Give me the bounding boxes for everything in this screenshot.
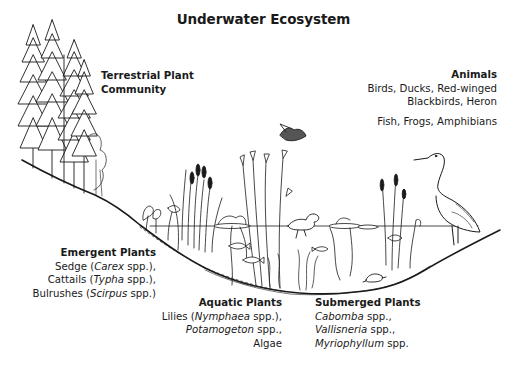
text-segment: Algae — [253, 338, 282, 349]
aquatic-line: Lilies (Nymphaea spp.), — [160, 310, 282, 324]
submerged-weeds — [268, 250, 318, 290]
text-segment: spp.), — [124, 261, 156, 272]
animals-line1: Birds, Ducks, Red-winged — [297, 82, 497, 96]
genus-name: Nymphaea — [195, 311, 250, 322]
shrub — [90, 134, 106, 190]
duck — [288, 214, 319, 238]
turtle — [363, 274, 386, 282]
text-segment: spp. — [384, 338, 409, 349]
emergent-line: Cattails (Typha spp.), — [0, 273, 156, 287]
terrestrial-heading-line2: Community — [101, 83, 194, 97]
aquatic-plants-label: Aquatic Plants Lilies (Nymphaea spp.), P… — [160, 296, 282, 350]
conifer-trees — [18, 20, 106, 196]
fish — [229, 235, 402, 263]
genus-name: Carex — [94, 261, 124, 272]
reeds — [240, 150, 292, 288]
cattails — [170, 164, 222, 252]
aquatic-heading: Aquatic Plants — [160, 296, 282, 310]
terrestrial-plant-label: Terrestrial Plant Community — [101, 69, 194, 96]
emergent-line: Sedge (Carex spp.), — [0, 260, 156, 274]
animals-line3: Fish, Frogs, Amphibians — [297, 115, 497, 129]
genus-name: Cabomba — [315, 311, 364, 322]
emergent-plants-label: Emergent Plants Sedge (Carex spp.), Catt… — [0, 246, 156, 300]
submerged-line: Myriophyllum spp. — [315, 337, 421, 351]
text-segment: spp.), — [124, 274, 156, 285]
animals-line2: Blackbirds, Heron — [297, 95, 497, 109]
genus-name: Potamogeton — [186, 324, 254, 335]
aquatic-line: Algae — [160, 337, 282, 351]
text-segment: spp.), — [250, 311, 282, 322]
submerged-plants-label: Submerged Plants Cabomba spp., Vallisner… — [315, 296, 421, 350]
submerged-heading: Submerged Plants — [315, 296, 421, 310]
aquatic-line: Potamogeton spp., — [160, 323, 282, 337]
submerged-line: Cabomba spp., — [315, 310, 421, 324]
lily-pads — [329, 218, 378, 280]
genus-name: Typha — [94, 274, 125, 285]
text-segment: spp., — [364, 311, 392, 322]
emergent-line: Bulrushes (Scirpus spp.) — [0, 287, 156, 301]
genus-name: Myriophyllum — [315, 338, 384, 349]
genus-name: Scirpus — [90, 288, 127, 299]
text-segment: spp., — [367, 324, 395, 335]
genus-name: Vallisneria — [315, 324, 367, 335]
terrestrial-heading-line1: Terrestrial Plant — [101, 69, 194, 83]
text-segment: spp.) — [127, 288, 156, 299]
animals-heading: Animals — [297, 68, 497, 82]
right-cattails — [380, 174, 421, 270]
heron — [414, 154, 480, 246]
shoreline-flowers — [143, 206, 180, 240]
text-segment: spp., — [254, 324, 282, 335]
animals-label: Animals Birds, Ducks, Red-winged Blackbi… — [297, 68, 497, 128]
submerged-line: Vallisneria spp., — [315, 323, 421, 337]
text-segment: Bulrushes ( — [32, 288, 89, 299]
text-segment: Sedge ( — [55, 261, 94, 272]
emergent-heading: Emergent Plants — [0, 246, 156, 260]
pond-basin — [205, 266, 430, 295]
text-segment: Lilies ( — [162, 311, 195, 322]
text-segment: Cattails ( — [48, 274, 94, 285]
